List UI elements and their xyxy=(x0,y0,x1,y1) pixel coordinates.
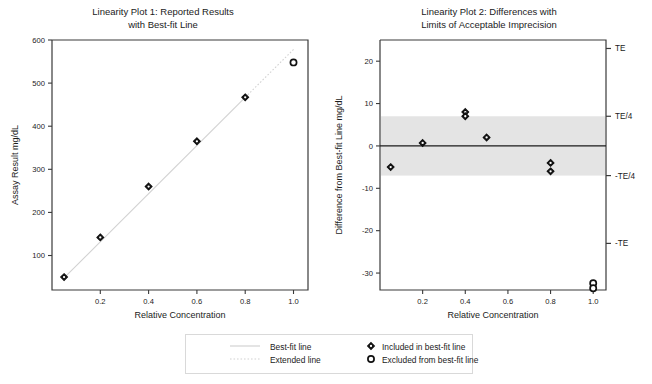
diamond-center-dot xyxy=(390,166,392,168)
plot-2-xtick-label: 0.2 xyxy=(417,297,428,306)
plot-1-ytick-label: 500 xyxy=(32,79,45,88)
plot-2-ytick-label: -10 xyxy=(362,184,373,193)
linearity-plot-2-panel: Linearity Plot 2: Differences with Limit… xyxy=(326,0,652,326)
plot-1-xtick-label: 0.6 xyxy=(192,297,203,306)
plot-1-point-included xyxy=(61,274,68,281)
plot-1-xtick-label: 1.0 xyxy=(288,297,299,306)
diamond-center-dot xyxy=(63,276,65,278)
legend-filled-diamond-swatch xyxy=(368,343,375,350)
plot-2-axes: 20100-10-20-30TETE/4-TE/4-TE0.20.40.60.8… xyxy=(334,40,635,320)
plot-1-ytick-label: 600 xyxy=(32,36,45,45)
plot-1-ytick-label: 300 xyxy=(32,165,45,174)
plot-1-xlabel: Relative Concentration xyxy=(134,310,225,320)
legend-label-included-in-fit: Included in best-fit line xyxy=(382,342,465,352)
plot-2-canvas: 20100-10-20-30TETE/4-TE/4-TE0.20.40.60.8… xyxy=(326,0,652,326)
plot-2-point-excluded xyxy=(590,285,596,291)
diamond-center-dot xyxy=(485,136,487,138)
plot-2-xtick-label: 0.8 xyxy=(545,297,556,306)
figure-legend: Best-fit line Extended line Included in … xyxy=(185,334,473,374)
plot-2-te-tick-label: -TE xyxy=(615,239,629,248)
plot-2-xlabel: Relative Concentration xyxy=(447,310,538,320)
open-circle-icon xyxy=(368,356,374,362)
plot-1-best-fit-line xyxy=(64,97,245,278)
plot-1-frame xyxy=(52,40,308,290)
diamond-center-dot xyxy=(549,170,551,172)
diamond-center-dot xyxy=(147,185,149,187)
plot-1-axes: 1002003004005006000.20.40.60.81.0Relativ… xyxy=(10,36,308,320)
plot-2-te-tick-label: TE/4 xyxy=(615,112,633,121)
linearity-plot-1-panel: Linearity Plot 1: Reported Results with … xyxy=(0,0,326,326)
open-circle-icon xyxy=(290,59,296,65)
plot-2-ytick-label: 20 xyxy=(365,57,373,66)
plot-2-xtick-label: 0.4 xyxy=(460,297,471,306)
plot-2-ylabel: Difference from Best-fit Line mg/dL xyxy=(334,96,344,235)
plot-2-ytick-label: -30 xyxy=(362,269,373,278)
plot-1-extended-line xyxy=(245,49,293,97)
plot-1-fit-lines xyxy=(64,49,293,277)
plot-1-xtick-label: 0.8 xyxy=(240,297,251,306)
plot-1-point-excluded xyxy=(290,59,296,65)
plot-2-xtick-label: 0.6 xyxy=(503,297,514,306)
plot-2-te-tick-label: TE xyxy=(615,44,626,53)
legend-swatches xyxy=(186,335,472,373)
legend-label-extended-line: Extended line xyxy=(270,355,321,365)
plot-1-ylabel: Assay Result mg/dL xyxy=(10,125,20,205)
open-circle-icon xyxy=(590,285,596,291)
plot-2-te-tick-label: -TE/4 xyxy=(615,172,635,181)
plot-2-ytick-label: 10 xyxy=(365,99,373,108)
diamond-center-dot xyxy=(370,345,372,347)
plot-2-xtick-label: 1.0 xyxy=(588,297,599,306)
plot-1-data-points xyxy=(61,59,297,280)
linearity-figure: Linearity Plot 1: Reported Results with … xyxy=(0,0,652,384)
legend-open-circle-swatch xyxy=(368,356,374,362)
diamond-center-dot xyxy=(196,140,198,142)
plot-2-ytick-label: -20 xyxy=(362,226,373,235)
diamond-center-dot xyxy=(549,162,551,164)
plot-1-ytick-label: 400 xyxy=(32,122,45,131)
plot-2-ytick-label: 0 xyxy=(369,142,373,151)
plot-1-canvas: 1002003004005006000.20.40.60.81.0Relativ… xyxy=(0,0,326,326)
plot-1-point-included xyxy=(145,183,152,190)
diamond-center-dot xyxy=(99,236,101,238)
plot-1-ytick-label: 100 xyxy=(32,251,45,260)
diamond-center-dot xyxy=(464,115,466,117)
legend-label-excluded-from-fit: Excluded from best-fit line xyxy=(382,355,478,365)
legend-label-best-fit-line: Best-fit line xyxy=(270,342,311,352)
plot-1-ytick-label: 200 xyxy=(32,208,45,217)
plot-1-xtick-label: 0.2 xyxy=(95,297,106,306)
plot-1-xtick-label: 0.4 xyxy=(143,297,154,306)
diamond-center-dot xyxy=(421,142,423,144)
diamond-center-dot xyxy=(244,96,246,98)
